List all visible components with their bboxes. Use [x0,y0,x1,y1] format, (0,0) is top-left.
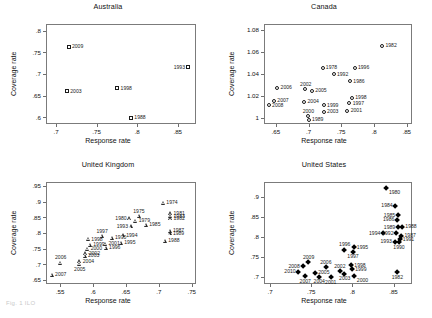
x-tick-label: .55 [46,288,74,295]
data-point [129,116,133,120]
data-point-label: 1996 [358,65,369,70]
y-tick [261,277,264,278]
figure-scatter-matrix: Australia.6.65.7.75.8.7.75.8.85Response … [0,0,432,318]
data-point [58,261,62,265]
panel-united-kingdom: United Kingdom.65.7.75.8.85.9.95.55.6.65… [0,160,216,316]
data-point-label: 2000 [303,109,314,114]
y-tick [261,30,264,31]
data-point-label: 1993 [117,224,128,229]
data-point-label: 1995 [124,240,135,245]
data-point [307,118,311,122]
data-point-label: 2006 [281,85,292,90]
x-tick [192,284,193,287]
data-point-label: 1989 [312,117,323,122]
data-point-label: 2009 [303,255,314,260]
data-point-label: 1985 [149,222,160,227]
data-point-label: 1993 [174,65,185,70]
panel-title: Canada [216,2,432,11]
data-point [380,44,384,48]
y-axis-title: Coverage rate [10,211,17,255]
x-tick-label: .85 [164,128,192,135]
data-point-label: 1998 [121,86,132,91]
data-point-label: 1995 [357,245,368,250]
data-point-label: 1980 [115,216,126,221]
y-tick-label: .8 [14,27,41,34]
data-point-label: 1997 [347,254,358,259]
y-tick-label: .75 [232,253,259,260]
data-point [321,66,325,70]
data-point-label: 2001 [325,280,336,285]
data-point [310,89,314,93]
data-point [267,103,271,107]
x-tick [374,124,375,127]
data-point-label: 1988 [405,224,416,229]
x-tick [97,124,98,127]
y-tick-label: 1.08 [232,26,259,33]
data-point [77,259,81,263]
data-point-label: 1974 [166,200,177,205]
data-point-label: 1997 [353,101,364,106]
data-point-label: 2003 [70,89,81,94]
data-point-label: 1999 [327,103,338,108]
data-point-label: 2002 [334,264,345,269]
y-tick [43,96,46,97]
x-tick-label: .7 [42,128,70,135]
data-point-label: 1989 [173,231,184,236]
y-axis-title: Coverage rate [228,52,235,96]
y-tick [261,217,264,218]
data-point [110,236,114,240]
data-point-label: 2003 [339,276,350,281]
data-point-label: 1991 [403,237,414,242]
x-tick-label: .8 [360,128,388,135]
data-point [50,273,54,277]
data-point-label: 2002 [300,82,311,87]
y-tick [43,52,46,53]
data-point-label: 1986 [353,79,364,84]
data-point-label: 1999 [355,267,366,272]
y-tick [43,249,46,250]
y-tick [43,117,46,118]
y-tick [43,264,46,265]
y-tick [261,96,264,97]
y-tick [261,257,264,258]
y-tick-label: .9 [14,198,41,205]
panel-title: United Kingdom [0,160,216,169]
data-point [353,66,357,70]
x-tick-label: .7 [295,128,323,135]
x-axis-title: Response rate [216,137,432,144]
data-point-label: 1992 [382,231,393,236]
data-point-label: 2003 [327,109,338,114]
x-tick [270,284,271,287]
data-point [100,234,104,238]
data-point-label: 1989 [384,225,395,230]
y-tick-label: .6 [14,114,41,121]
x-tick [276,124,277,127]
data-point [137,214,141,218]
data-point-label: 1988 [168,238,179,243]
y-tick-label: .8 [14,229,41,236]
y-tick [261,118,264,119]
x-tick [159,284,160,287]
data-point-label: 1975 [133,209,144,214]
y-tick [43,202,46,203]
x-tick-label: .85 [393,128,421,135]
x-tick-label: .75 [327,128,355,135]
y-tick [43,186,46,187]
data-point-label: 1984 [381,203,392,208]
panel-title: United States [216,160,432,169]
x-tick [309,124,310,127]
data-point-label: 2010 [284,269,295,274]
y-tick [43,280,46,281]
data-point-label: 2008 [272,103,283,108]
y-tick-label: .65 [14,92,41,99]
y-tick-label: 1.04 [232,70,259,77]
x-tick [178,124,179,127]
data-point-label: 2006 [320,260,331,265]
panel-united-states: United States.7.75.8.85.9.7.75.8.85Respo… [216,160,432,316]
y-tick-label: .8 [232,233,259,240]
y-axis-title: Coverage rate [10,52,17,96]
data-point [348,79,352,83]
data-point [350,96,354,100]
data-point [121,233,125,237]
data-point [83,251,87,255]
